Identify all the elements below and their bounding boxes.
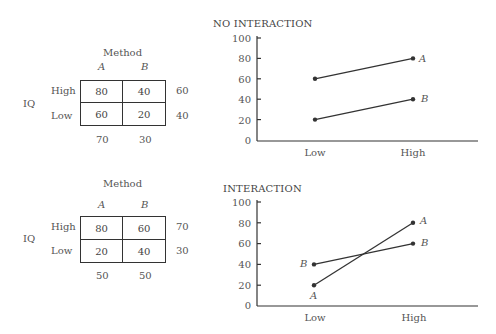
svg-text:B: B [299, 258, 307, 269]
svg-text:40: 40 [238, 259, 251, 270]
svg-text:80: 80 [238, 218, 251, 229]
svg-text:0: 0 [245, 300, 251, 311]
svg-text:20: 20 [238, 280, 251, 291]
svg-text:A: A [309, 290, 317, 301]
svg-text:60: 60 [238, 238, 251, 249]
line-chart-interaction: 100 80 60 40 20 0 Low High A B B A [0, 0, 496, 334]
svg-text:Low: Low [304, 312, 326, 323]
svg-text:B: B [420, 237, 428, 248]
svg-text:High: High [402, 312, 427, 323]
svg-text:A: A [419, 215, 427, 226]
svg-text:100: 100 [232, 197, 251, 208]
